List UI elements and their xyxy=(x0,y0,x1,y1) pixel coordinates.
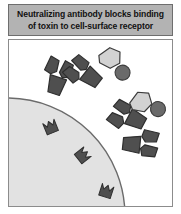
scene-diagram xyxy=(9,40,172,206)
antibody-bound-to-toxin-upper xyxy=(61,53,105,95)
figure-caption-bar: Neutralizing antibody blocks binding of … xyxy=(8,4,173,36)
caption-line-1: Neutralizing antibody blocks binding xyxy=(17,8,164,20)
figure-panel: Neutralizing antibody blocks binding of … xyxy=(0,0,181,214)
illustration-panel xyxy=(8,39,173,207)
caption-line-2: of toxin to cell-surface receptor xyxy=(28,20,153,32)
antibody-lower-right xyxy=(122,128,160,158)
